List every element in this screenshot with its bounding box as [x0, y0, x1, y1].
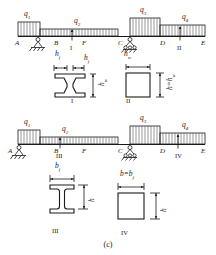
- support-A-bottom: [11, 146, 27, 160]
- figure-root: q1 q2 q3 q4 A B F C D E I II hf hf hw I: [0, 0, 216, 255]
- dim-label-III-bf: bf: [55, 162, 60, 172]
- figure-caption: (c): [0, 240, 216, 249]
- load-block-q1-bottom: [18, 130, 40, 144]
- dim-label-I-hw: hw: [98, 79, 108, 86]
- load-label-q1-top: q1: [24, 10, 30, 20]
- section-marker-IV-label: IV: [175, 153, 182, 160]
- point-label-D-bottom: D: [160, 148, 165, 155]
- point-label-F-top: F: [82, 40, 86, 47]
- point-label-E-top: E: [201, 40, 205, 47]
- point-label-D-top: D: [160, 40, 165, 47]
- load-label-q3-bottom: q3: [140, 114, 146, 124]
- dim-label-II-hw: hw: [124, 50, 131, 60]
- cross-section-IV: [112, 174, 178, 230]
- load-block-q3-bottom: [130, 126, 160, 144]
- dim-label-IV-b: b=bf: [120, 170, 134, 180]
- section-marker-III-label: III: [56, 153, 63, 160]
- point-label-B-top: B: [54, 40, 58, 47]
- point-label-F-bottom: F: [82, 148, 86, 155]
- load-block-q4-top: [160, 25, 205, 36]
- section-II-caption: II: [126, 98, 130, 105]
- load-label-q1-bottom: q1: [24, 118, 30, 128]
- dim-label-III-h: h: [88, 198, 96, 202]
- load-label-q4-bottom: q4: [182, 121, 188, 131]
- upper-beam-diagram: [0, 0, 216, 58]
- section-I-caption: I: [71, 98, 73, 105]
- load-label-q3-top: q3: [140, 6, 146, 16]
- support-B-top: [30, 38, 46, 52]
- section-IV-caption: IV: [121, 230, 128, 237]
- lower-beam-diagram: [0, 108, 216, 166]
- load-label-q4-top: q4: [182, 13, 188, 23]
- support-C-bottom: [122, 146, 138, 161]
- load-block-q1-top: [18, 22, 40, 36]
- load-block-q4-bottom: [160, 133, 205, 144]
- point-label-E-bottom: E: [201, 148, 205, 155]
- section-marker-I-label: I: [70, 45, 72, 52]
- point-label-A-bottom: A: [8, 148, 12, 155]
- dim-label-II-h: h=hw: [166, 74, 176, 90]
- point-label-A-top: A: [15, 40, 19, 47]
- load-block-q2-top: [40, 29, 118, 36]
- dim-label-I-hf-right: hf: [84, 54, 89, 64]
- section-III-caption: III: [52, 228, 59, 235]
- load-block-q2-bottom: [40, 137, 118, 144]
- section-marker-IV-arrow: [177, 134, 180, 149]
- section-marker-II-label: II: [177, 45, 181, 52]
- dim-label-I-hf-left: hf: [55, 50, 60, 60]
- cross-section-I: [50, 54, 105, 102]
- cross-section-III: [42, 166, 104, 228]
- point-label-C-bottom: C: [118, 148, 123, 155]
- dim-label-IV-h: h: [160, 208, 168, 212]
- point-label-C-top: C: [118, 40, 123, 47]
- load-label-q2-top: q2: [74, 17, 80, 27]
- load-label-q2-bottom: q2: [62, 125, 68, 135]
- load-block-q3-top: [130, 18, 160, 36]
